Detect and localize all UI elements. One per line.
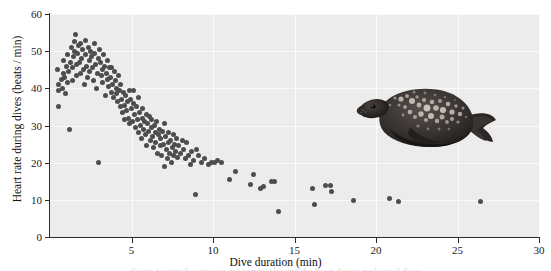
scatter-point	[351, 198, 356, 203]
x-tick-mark	[295, 238, 296, 243]
scatter-point	[113, 78, 118, 83]
scatter-point	[94, 86, 99, 91]
x-tick-mark	[539, 238, 540, 243]
scatter-point	[136, 130, 141, 135]
y-tick-mark	[45, 51, 50, 52]
y-tick-mark	[45, 126, 50, 127]
x-tick-mark	[132, 238, 133, 243]
scatter-point	[261, 184, 266, 189]
scatter-point	[55, 67, 60, 72]
scatter-point	[135, 117, 140, 122]
y-tick-mark	[45, 88, 50, 89]
scatter-point	[56, 104, 61, 109]
x-tick-label: 15	[280, 245, 310, 256]
gridline-vertical	[295, 14, 296, 237]
y-tick-mark	[45, 200, 50, 201]
scatter-point	[73, 32, 78, 37]
gridline-vertical	[458, 14, 459, 237]
scatter-point	[136, 95, 141, 100]
y-tick-mark	[45, 14, 50, 15]
x-tick-label: 5	[117, 245, 147, 256]
scatter-point	[151, 145, 156, 150]
scatter-point	[68, 60, 73, 65]
scatter-point	[162, 164, 167, 169]
scatter-point	[169, 160, 174, 165]
scatter-point	[154, 119, 159, 124]
y-tick-mark	[45, 163, 50, 164]
y-tick-label: 0	[0, 232, 42, 243]
gridline-vertical	[213, 14, 214, 237]
y-axis-title: Heart rate during dives (beats / min)	[11, 9, 23, 229]
x-tick-label: 10	[198, 245, 228, 256]
scatter-point	[272, 179, 277, 184]
x-tick-label: 20	[361, 245, 391, 256]
scatter-point	[131, 88, 136, 93]
scatter-point	[91, 78, 96, 83]
scatter-point	[61, 58, 66, 63]
scatter-point	[60, 86, 65, 91]
scatter-point	[310, 186, 315, 191]
y-tick-mark	[45, 237, 50, 238]
scatter-point	[140, 106, 145, 111]
gridline-vertical	[376, 14, 377, 237]
scatter-point	[134, 104, 139, 109]
scatter-point	[85, 75, 90, 80]
scatter-point	[97, 47, 102, 52]
scatter-point	[109, 90, 114, 95]
scatter-point	[396, 199, 401, 204]
scatter-point	[233, 169, 238, 174]
scatter-point	[329, 189, 334, 194]
plot-area	[50, 14, 539, 237]
scatter-point	[82, 82, 87, 87]
scatter-point	[65, 52, 70, 57]
scatter-point	[159, 153, 164, 158]
scatter-point	[84, 64, 89, 69]
x-tick-mark	[213, 238, 214, 243]
scatter-point	[67, 127, 72, 132]
scatter-point	[184, 140, 189, 145]
scatter-point	[160, 129, 165, 134]
scatter-point	[92, 51, 97, 56]
x-tick-label: 30	[524, 245, 551, 256]
x-tick-mark	[458, 238, 459, 243]
scatter-point	[103, 93, 108, 98]
scatter-point	[227, 177, 232, 182]
scatter-point	[66, 69, 71, 74]
scatter-point	[70, 78, 75, 83]
scatter-point	[219, 160, 224, 165]
scatter-point	[108, 75, 113, 80]
scatter-point	[196, 153, 201, 158]
scatter-point	[63, 91, 68, 96]
scatter-point	[80, 47, 85, 52]
scatter-point	[92, 41, 97, 46]
scatter-point	[162, 121, 167, 126]
x-tick-mark	[376, 238, 377, 243]
scatter-point	[65, 80, 70, 85]
scatter-point	[478, 199, 483, 204]
scatter-point	[118, 82, 123, 87]
scatter-point	[202, 156, 207, 161]
scatter-point	[75, 51, 80, 56]
scatter-point	[312, 202, 317, 207]
scatter-point	[96, 160, 101, 165]
scatter-point	[193, 192, 198, 197]
scatter-point	[144, 143, 149, 148]
scatter-point	[248, 182, 253, 187]
scatter-point	[62, 75, 67, 80]
x-tick-label: 25	[443, 245, 473, 256]
caption-sliver: diving mammals conserve oxygen by slowin…	[0, 266, 551, 271]
scatter-point	[116, 73, 121, 78]
scatter-point	[328, 183, 333, 188]
scatter-point	[83, 38, 88, 43]
scatter-point	[194, 147, 199, 152]
scatter-point	[139, 136, 144, 141]
scatter-point	[101, 52, 106, 57]
scatter-point	[174, 136, 179, 141]
scatter-point	[387, 196, 392, 201]
scatter-point	[276, 209, 281, 214]
scatter-point	[181, 147, 186, 152]
scatter-point	[105, 58, 110, 63]
scatter-point	[251, 172, 256, 177]
scatter-point	[79, 56, 84, 61]
figure-container: 6050403020100 51015202530 Dive duration …	[0, 0, 551, 271]
